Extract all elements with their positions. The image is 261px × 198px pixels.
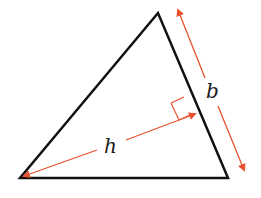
triangle — [20, 13, 228, 178]
right-angle-marker — [171, 103, 192, 120]
triangle-diagram: h b — [0, 0, 261, 198]
base-label: b — [206, 79, 219, 103]
height-label: h — [104, 134, 117, 158]
